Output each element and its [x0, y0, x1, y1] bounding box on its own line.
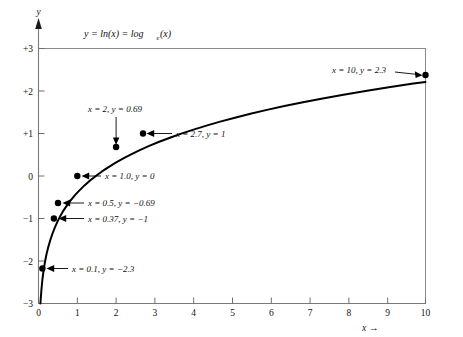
- data-point-x2: [113, 144, 119, 150]
- x-tick-label-5: 5: [230, 308, 235, 318]
- annotation-label-x27: x = 2.7, y = 1: [175, 129, 225, 139]
- data-point-x27: [140, 130, 146, 136]
- data-point-x05: [55, 200, 61, 206]
- y-tick-label-m1: −1: [23, 214, 33, 224]
- chart-title: y = ln(x) = log e (x): [83, 28, 172, 41]
- annotation-x037: x = 0.37, y = −1: [51, 214, 148, 224]
- x-ticks: [39, 298, 426, 304]
- data-point-x10: [422, 72, 428, 78]
- x-tick-labels: 0 1 2 3 4 5 6 7 8 9 10: [36, 308, 430, 318]
- chart-title-main: y = ln(x) = log: [83, 28, 144, 40]
- arrowhead-x01: [47, 265, 55, 272]
- annotation-x05: x = 0.5, y = −0.69: [55, 198, 155, 208]
- annotation-label-x05: x = 0.5, y = −0.69: [87, 198, 155, 208]
- x-tick-label-6: 6: [269, 308, 274, 318]
- annotation-label-x01: x = 0.1, y = −2.3: [71, 264, 135, 274]
- x-tick-label-9: 9: [385, 308, 390, 318]
- annotation-x1: x = 1.0, y = 0: [74, 171, 155, 181]
- annotation-x27: x = 2.7, y = 1: [140, 129, 226, 139]
- x-tick-label-4: 4: [191, 308, 196, 318]
- annotation-x01: x = 0.1, y = −2.3: [39, 264, 135, 274]
- y-tick-label-m2: −2: [23, 257, 33, 267]
- ln-plot-svg: y y = ln(x) = log e (x) 0 1 2 3 4 5 6 7 …: [0, 0, 463, 337]
- annotation-label-x2: x = 2, y = 0.69: [87, 104, 142, 114]
- chart-figure: y y = ln(x) = log e (x) 0 1 2 3 4 5 6 7 …: [0, 0, 463, 337]
- y-axis-label: y: [35, 7, 41, 17]
- x-tick-label-8: 8: [347, 308, 352, 318]
- y-axis-arrowhead: [35, 18, 42, 29]
- x-tick-label-0: 0: [36, 308, 41, 318]
- y-tick-label-p1: +1: [23, 129, 33, 139]
- x-axis-arrow-icon: →: [369, 323, 379, 333]
- x-axis-label: x: [361, 323, 367, 333]
- y-tick-label-m3: −3: [23, 299, 33, 309]
- annotation-label-x10: x = 10, y = 2.3: [331, 65, 386, 75]
- y-tick-label-p2: +2: [23, 87, 33, 97]
- data-point-x01: [39, 265, 45, 271]
- arrowhead-x1: [82, 173, 90, 180]
- x-tick-label-1: 1: [75, 308, 80, 318]
- y-tick-label-0: 0: [28, 172, 33, 182]
- data-point-x1: [74, 173, 80, 179]
- y-tick-label-p3: +3: [23, 44, 33, 54]
- arrowhead-x27: [147, 130, 155, 137]
- x-tick-label-3: 3: [153, 308, 158, 318]
- x-tick-label-2: 2: [114, 308, 119, 318]
- annotation-label-x037: x = 0.37, y = −1: [87, 214, 148, 224]
- arrowhead-x10: [415, 71, 423, 78]
- annotation-label-x1: x = 1.0, y = 0: [104, 171, 155, 181]
- x-tick-label-10: 10: [421, 308, 431, 318]
- y-tick-labels: +3 +2 +1 0 −1 −2 −3: [23, 44, 33, 309]
- annotation-x2: x = 2, y = 0.69: [87, 104, 142, 150]
- data-point-x037: [51, 215, 57, 221]
- x-tick-label-7: 7: [308, 308, 313, 318]
- chart-title-tail: (x): [160, 28, 172, 40]
- x-axis-label-group: x →: [361, 323, 379, 333]
- annotation-x10: x = 10, y = 2.3: [331, 65, 429, 78]
